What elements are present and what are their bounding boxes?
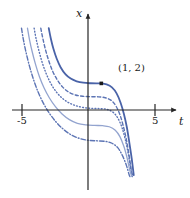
tick-label-neg5: -5 bbox=[17, 116, 27, 126]
x-axis-label: t bbox=[179, 116, 183, 127]
curve-5-dashdot bbox=[22, 28, 131, 177]
solution-curves-group bbox=[22, 28, 134, 177]
annotation-marker-group bbox=[100, 82, 104, 86]
plot-svg bbox=[0, 0, 190, 198]
point-annotation-label: (1, 2) bbox=[118, 63, 145, 73]
figure-container: x t -5 5 (1, 2) bbox=[0, 0, 190, 198]
tick-label-pos5: 5 bbox=[152, 116, 158, 126]
point-marker-1-2 bbox=[100, 82, 104, 86]
y-axis-label: x bbox=[76, 8, 82, 19]
curve-3-dotted bbox=[34, 28, 132, 176]
